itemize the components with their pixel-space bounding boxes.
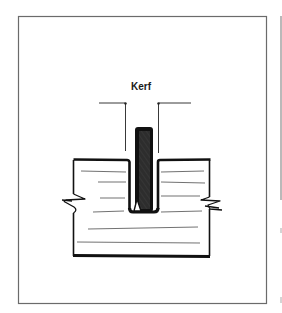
kerf-label: Kerf (131, 81, 152, 92)
saw-blade (134, 127, 153, 212)
kerf-diagram: Kerf (0, 0, 282, 313)
